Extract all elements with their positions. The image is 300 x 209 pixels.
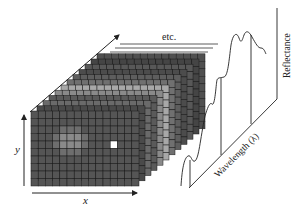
y-axis-label: y [14,143,20,155]
front-band-layer [31,111,139,186]
band-layers [31,54,205,186]
hyperspectral-cube-diagram: etc. y x Wavelength (λ) Reflectance [0,0,300,209]
additional-bands-lines [105,44,218,55]
etc-label: etc. [162,31,176,42]
reflectance-label: Reflectance [282,33,292,78]
wavelength-label: Wavelength (λ) [212,131,261,180]
x-axis-label: x [82,194,88,206]
